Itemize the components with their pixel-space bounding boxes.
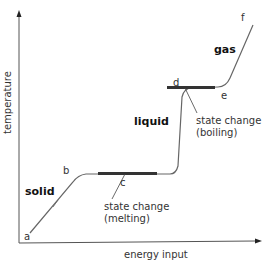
- y-axis-title: temperature: [2, 71, 13, 134]
- x-axis: [19, 241, 255, 243]
- y-axis-arrow-icon: [17, 10, 22, 17]
- boiling-leader: [185, 88, 197, 113]
- melting-annotation-line1: state change: [104, 201, 169, 212]
- x-axis-title: energy input: [124, 249, 188, 260]
- phase-label-solid: solid: [25, 185, 55, 198]
- phase-label-gas: gas: [214, 43, 236, 56]
- boiling-annotation-line1: state change: [196, 115, 261, 126]
- boiling-annotation-line2: (boiling): [196, 127, 237, 138]
- x-axis-arrow-icon: [255, 239, 262, 244]
- solid-pointer: [53, 200, 58, 207]
- point-label-e: e: [221, 90, 227, 101]
- point-label-f: f: [241, 12, 245, 23]
- point-label-c: c: [120, 177, 126, 188]
- phase-label-liquid: liquid: [134, 115, 169, 128]
- point-label-a: a: [24, 231, 30, 242]
- point-label-b: b: [63, 165, 69, 176]
- point-label-d: d: [173, 77, 179, 88]
- melting-annotation-line2: (melting): [104, 213, 150, 224]
